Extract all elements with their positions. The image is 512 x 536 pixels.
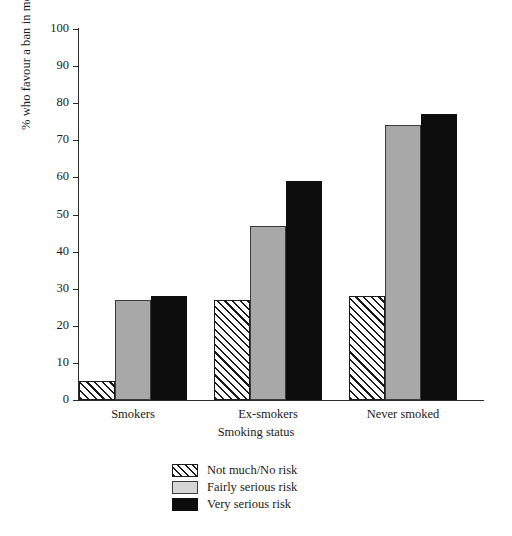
legend-swatch-icon — [172, 498, 198, 511]
y-axis-tick: 10 — [73, 363, 79, 364]
legend-item-label: Very serious risk — [207, 497, 291, 512]
y-axis-tick-label: 10 — [57, 355, 70, 370]
chart-legend: Not much/No riskFairly serious riskVery … — [172, 462, 372, 513]
y-axis-tick: 20 — [73, 326, 79, 327]
y-axis-tick-label: 70 — [57, 132, 70, 147]
bar-ex-smokers-fairly-serious-risk — [250, 226, 286, 400]
legend-item: Not much/No risk — [172, 462, 372, 479]
legend-item: Very serious risk — [172, 496, 372, 513]
bar-never-smoked-not-much-no-risk — [349, 296, 385, 400]
y-axis-tick: 70 — [73, 140, 79, 141]
y-axis-tick-label: 0 — [63, 392, 69, 407]
legend-item: Fairly serious risk — [172, 479, 372, 496]
bar-never-smoked-fairly-serious-risk — [385, 125, 421, 400]
y-axis-tick: 0 — [73, 400, 79, 401]
y-axis-tick-label: 80 — [57, 95, 70, 110]
y-axis-tick: 30 — [73, 289, 79, 290]
legend-item-label: Not much/No risk — [207, 463, 297, 478]
y-axis-tick-label: 20 — [57, 318, 70, 333]
y-axis-title: % who favour a ban in most sites — [19, 0, 34, 130]
y-axis-tick: 80 — [73, 103, 79, 104]
bar-never-smoked-very-serious-risk — [421, 114, 457, 400]
bar-smokers-fairly-serious-risk — [115, 300, 151, 400]
y-axis-tick: 40 — [73, 252, 79, 253]
bar-ex-smokers-very-serious-risk — [286, 181, 322, 400]
y-axis-tick-label: 60 — [57, 169, 70, 184]
y-axis-tick-label: 90 — [57, 58, 70, 73]
y-axis-tick-label: 50 — [57, 207, 70, 222]
y-axis-tick: 60 — [73, 177, 79, 178]
x-axis-title: Smoking status — [0, 425, 512, 440]
x-axis-group-label: Smokers — [79, 407, 187, 422]
bar-ex-smokers-not-much-no-risk — [214, 300, 250, 400]
bar-smokers-not-much-no-risk — [79, 381, 115, 400]
legend-swatch-icon — [172, 481, 198, 494]
y-axis-tick-label: 30 — [57, 281, 70, 296]
y-axis-tick-label: 40 — [57, 244, 70, 259]
x-axis-group-label: Ex-smokers — [214, 407, 322, 422]
x-axis-group-label: Never smoked — [349, 407, 457, 422]
legend-item-label: Fairly serious risk — [207, 480, 297, 495]
legend-swatch-icon — [172, 464, 198, 477]
y-axis-tick: 50 — [73, 215, 79, 216]
bar-smokers-very-serious-risk — [151, 296, 187, 400]
x-axis-line — [78, 400, 484, 401]
y-axis-tick: 90 — [73, 66, 79, 67]
y-axis-tick: 100 — [73, 29, 79, 30]
plot-area: 0102030405060708090100 — [79, 29, 484, 400]
y-axis-tick-label: 100 — [50, 21, 69, 36]
